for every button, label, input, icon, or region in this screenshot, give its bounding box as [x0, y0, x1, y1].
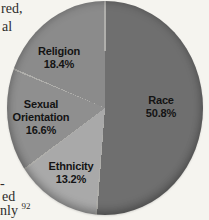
- slice-label-sexual-orientation: Sexual Orientation 16.6%: [6, 98, 75, 137]
- page-text-fragment: red,: [1, 1, 22, 16]
- page-text-fragment: nly 92: [0, 203, 30, 218]
- slice-percent: 18.4%: [38, 58, 80, 71]
- slice-name: Ethnicity: [49, 160, 94, 173]
- footnote-marker: 92: [21, 201, 30, 211]
- slice-label-race: Race 50.8%: [146, 94, 176, 120]
- slice-percent: 50.8%: [146, 107, 176, 120]
- slice-percent: 13.2%: [49, 173, 94, 186]
- slice-label-religion: Religion 18.4%: [38, 45, 80, 71]
- slice-percent: 16.6%: [6, 124, 75, 137]
- slice-label-ethnicity: Ethnicity 13.2%: [49, 160, 94, 186]
- page-text-fragment: al: [2, 19, 12, 34]
- scanned-page: red, al - ed nly 92 Religion 18.4% Sexua…: [0, 0, 209, 220]
- slice-name: Race: [146, 94, 176, 107]
- slice-name: Sexual Orientation: [6, 98, 75, 124]
- slice-name: Religion: [38, 45, 80, 58]
- page-text-word: nly: [0, 203, 18, 218]
- page-text-fragment: ed: [2, 189, 15, 204]
